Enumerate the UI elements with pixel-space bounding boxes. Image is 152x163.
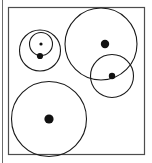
top-right-large-center-dot [101,40,109,48]
circles-diagram [0,0,152,163]
figure-container [0,0,152,163]
right-medium-center-dot [109,73,115,79]
bottom-left-center-dot [44,114,53,123]
top-left-inner-center-dot [39,42,42,45]
top-left-lower-dot [37,53,43,59]
figure-background [0,0,152,163]
